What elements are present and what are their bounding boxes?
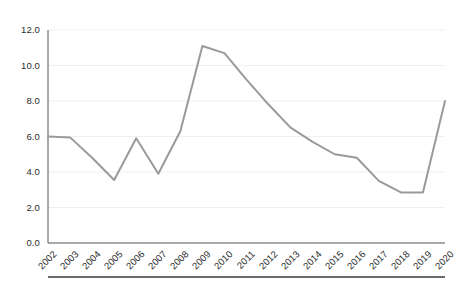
y-axis-tick-label: 10.0 (6, 61, 40, 71)
y-axis-tick-label: 8.0 (6, 96, 40, 106)
y-axis-tick-label: 6.0 (6, 132, 40, 142)
chart-plot-area (0, 0, 467, 286)
gridlines-group (48, 30, 445, 208)
y-axis-tick-label: 4.0 (6, 167, 40, 177)
y-axis-tick-label: 12.0 (6, 25, 40, 35)
data-series-group (48, 46, 445, 192)
y-axis-tick-label: 0.0 (6, 238, 40, 248)
chart-figure: 0.02.04.06.08.010.012.0 2002200320042005… (0, 0, 467, 286)
data-line-series-1 (48, 46, 445, 192)
y-axis-tick-label: 2.0 (6, 203, 40, 213)
